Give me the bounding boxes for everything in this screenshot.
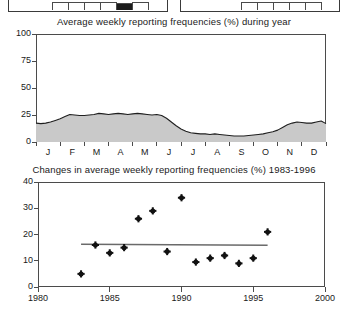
y-tick-label-changes: 40 bbox=[0, 176, 33, 186]
x-tick-seasonal bbox=[277, 142, 278, 146]
x-tick-seasonal bbox=[181, 142, 182, 146]
page-root: Average weekly reporting frequencies (%)… bbox=[0, 0, 348, 318]
y-tick-label-seasonal: 25 bbox=[0, 109, 31, 119]
seasonal-area-chart: Average weekly reporting frequencies (%)… bbox=[0, 16, 348, 164]
scatter-point bbox=[77, 270, 84, 277]
x-tick-seasonal bbox=[132, 142, 133, 146]
cropped-panels-strip bbox=[0, 0, 348, 14]
x-tick-label-seasonal: O bbox=[256, 147, 276, 157]
x-tick-label-changes: 1980 bbox=[20, 293, 56, 303]
y-tick-label-changes: 30 bbox=[0, 202, 33, 212]
y-tick-label-seasonal: 100 bbox=[0, 28, 31, 38]
y-tick-label-changes: 10 bbox=[0, 255, 33, 265]
x-tick-label-seasonal: J bbox=[38, 147, 58, 157]
x-tick-label-seasonal: D bbox=[304, 147, 324, 157]
y-tick-label-changes: 20 bbox=[0, 229, 33, 239]
yearly-change-scatter: Changes in average weekly reporting freq… bbox=[0, 164, 348, 318]
x-tick-label-changes: 1990 bbox=[164, 293, 200, 303]
scatter-point bbox=[164, 248, 171, 255]
y-tick-changes bbox=[34, 208, 38, 209]
x-tick-seasonal bbox=[205, 142, 206, 146]
x-tick-seasonal bbox=[301, 142, 302, 146]
x-tick-label-changes: 1995 bbox=[235, 293, 271, 303]
scatter-point bbox=[264, 228, 271, 235]
area-series-seasonal bbox=[36, 34, 326, 142]
cropped-panel-left bbox=[8, 0, 168, 12]
right-panel-bar bbox=[289, 2, 306, 10]
x-tick-changes bbox=[109, 287, 110, 292]
x-tick-seasonal bbox=[60, 142, 61, 146]
y-tick-seasonal bbox=[32, 115, 36, 116]
x-tick-label-seasonal: M bbox=[86, 147, 106, 157]
y-tick-seasonal bbox=[32, 61, 36, 62]
y-tick-changes bbox=[34, 234, 38, 235]
x-tick-label-seasonal: A bbox=[207, 147, 227, 157]
x-tick-label-seasonal: F bbox=[62, 147, 82, 157]
y-tick-label-seasonal: 0 bbox=[0, 136, 31, 146]
x-tick-label-seasonal: A bbox=[111, 147, 131, 157]
x-tick-seasonal bbox=[36, 142, 37, 146]
y-tick-changes bbox=[34, 182, 38, 183]
chart-title-changes: Changes in average weekly reporting freq… bbox=[0, 164, 348, 175]
x-tick-seasonal bbox=[229, 142, 230, 146]
cropped-panel-right bbox=[180, 0, 340, 12]
x-tick-label-seasonal: J bbox=[159, 147, 179, 157]
right-panel-bar bbox=[305, 2, 322, 10]
scatter-point bbox=[135, 215, 142, 222]
scatter-point bbox=[221, 252, 228, 259]
x-tick-seasonal bbox=[108, 142, 109, 146]
y-tick-label-seasonal: 50 bbox=[0, 82, 31, 92]
x-tick-label-seasonal: J bbox=[183, 147, 203, 157]
y-tick-changes bbox=[34, 260, 38, 261]
scatter-point bbox=[178, 194, 185, 201]
scatter-point bbox=[235, 260, 242, 267]
right-panel-bar bbox=[241, 2, 258, 10]
x-tick-label-seasonal: S bbox=[231, 147, 251, 157]
left-panel-bar bbox=[132, 2, 149, 10]
x-tick-seasonal bbox=[156, 142, 157, 146]
scatter-series-changes bbox=[38, 182, 325, 287]
scatter-point bbox=[192, 258, 199, 265]
trend-line-changes bbox=[81, 244, 268, 245]
y-tick-seasonal bbox=[32, 34, 36, 35]
x-tick-changes bbox=[38, 287, 39, 292]
y-tick-label-changes: 0 bbox=[0, 281, 33, 291]
x-tick-seasonal bbox=[326, 142, 327, 146]
x-tick-changes bbox=[181, 287, 182, 292]
scatter-point bbox=[92, 241, 99, 248]
scatter-point bbox=[207, 255, 214, 262]
scatter-point bbox=[250, 255, 257, 262]
scatter-point bbox=[149, 207, 156, 214]
cropped-panel-left-bars bbox=[53, 2, 149, 10]
left-panel-bar bbox=[68, 2, 85, 10]
x-tick-changes bbox=[253, 287, 254, 292]
y-tick-label-seasonal: 75 bbox=[0, 55, 31, 65]
left-panel-bar bbox=[84, 2, 101, 10]
x-tick-label-seasonal: N bbox=[280, 147, 300, 157]
x-tick-seasonal bbox=[253, 142, 254, 146]
right-panel-bar bbox=[257, 2, 274, 10]
right-panel-bar bbox=[273, 2, 290, 10]
y-tick-seasonal bbox=[32, 88, 36, 89]
cropped-panel-right-bars bbox=[242, 2, 322, 10]
x-tick-label-seasonal: M bbox=[135, 147, 155, 157]
left-panel-bar bbox=[100, 2, 117, 10]
chart-title-seasonal: Average weekly reporting frequencies (%)… bbox=[0, 16, 348, 27]
scatter-point bbox=[106, 249, 113, 256]
x-tick-label-changes: 1985 bbox=[92, 293, 128, 303]
left-panel-bar bbox=[52, 2, 69, 10]
left-panel-bar bbox=[116, 3, 133, 10]
x-tick-changes bbox=[325, 287, 326, 292]
x-tick-label-changes: 2000 bbox=[307, 293, 343, 303]
x-tick-seasonal bbox=[84, 142, 85, 146]
